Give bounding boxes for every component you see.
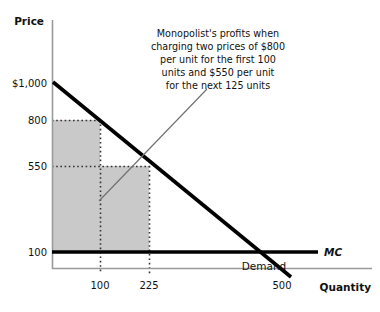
- y-tick-label-1000: $1,000: [12, 78, 47, 89]
- annotation-line-4: units and $550 per unit: [162, 67, 275, 78]
- annotation-line-1: Monopolist's profits when: [157, 28, 279, 39]
- shaded-region-first-block: [52, 120, 100, 252]
- x-tick-label-500: 500: [272, 280, 291, 291]
- price-axis-title: Price: [14, 15, 44, 27]
- y-tick-label-550: 550: [28, 161, 47, 172]
- price-quantity-chart: $1,000 800 550 100 100 225 500 Price Qua…: [0, 0, 380, 312]
- demand-curve-label: Demand: [242, 260, 287, 272]
- chart-svg: $1,000 800 550 100 100 225 500 Price Qua…: [0, 0, 380, 312]
- y-tick-label-100: 100: [28, 247, 47, 258]
- quantity-axis-title: Quantity: [320, 281, 372, 293]
- annotation-line-5: for the next 125 units: [166, 80, 270, 91]
- mc-curve-label: MC: [324, 246, 342, 258]
- annotation-leader-line: [99, 89, 207, 201]
- y-tick-label-800: 800: [28, 115, 47, 126]
- x-tick-label-100: 100: [90, 280, 109, 291]
- annotation-line-3: per unit for the first 100: [160, 54, 276, 65]
- annotation-line-2: charging two prices of $800: [151, 41, 285, 52]
- x-tick-label-225: 225: [139, 280, 158, 291]
- profit-annotation: Monopolist's profits when charging two p…: [151, 28, 285, 91]
